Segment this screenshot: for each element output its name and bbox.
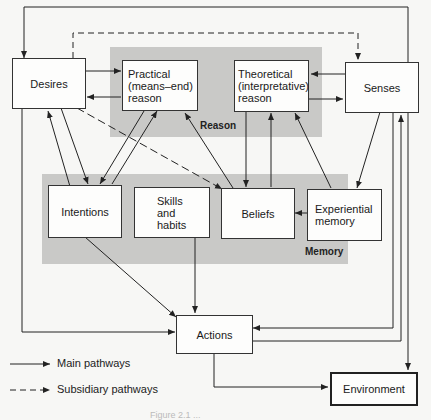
intentions-node: Intentions xyxy=(48,185,122,238)
experiential-memory-node: Experiential memory xyxy=(307,189,382,241)
senses-to-desires-path xyxy=(24,7,408,62)
skills-habits-node: Skills and habits xyxy=(134,187,210,238)
desires-node: Desires xyxy=(12,58,86,109)
legend-main-label: Main pathways xyxy=(57,357,130,369)
legend-subsidiary-label: Subsidiary pathways xyxy=(57,383,158,395)
desires-to-senses-dashed-path xyxy=(73,33,358,60)
theoretical-reason-node: Theoretical (interpretative) reason xyxy=(234,60,309,112)
senses-node: Senses xyxy=(345,62,419,113)
beliefs-node: Beliefs xyxy=(221,188,295,239)
actions-node: Actions xyxy=(176,315,253,354)
practical-reason-node: Practical (means–end) reason xyxy=(122,60,198,111)
figure-caption: Figure 2.1 ... xyxy=(150,410,201,420)
environment-node: Environment xyxy=(330,372,418,406)
